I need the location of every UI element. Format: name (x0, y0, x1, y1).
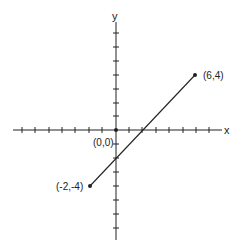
y-axis-label: y (112, 10, 118, 22)
x-axis-label: x (224, 124, 230, 136)
point-6-4-label: (6,4) (203, 70, 224, 81)
coordinate-plane: x y (0,0) (6,4) (-2,-4) (0, 0, 241, 251)
point-6-4 (193, 73, 197, 77)
point-neg2-neg4-label: (-2,-4) (56, 181, 83, 192)
origin-point (114, 128, 118, 132)
point-neg2-neg4 (88, 184, 92, 188)
origin-label: (0,0) (93, 137, 114, 148)
